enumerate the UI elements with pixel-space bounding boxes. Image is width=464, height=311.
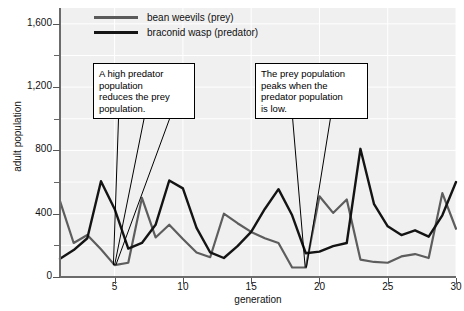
y-tick-mark	[53, 150, 60, 151]
annotation-text-line: is low.	[261, 103, 362, 115]
y-tick-mark-minor	[54, 119, 60, 120]
x-axis-line	[59, 276, 456, 278]
x-tick-label: 30	[441, 281, 464, 292]
y-tick-label: 400	[0, 207, 52, 218]
annotation-text-line: A high predator	[99, 68, 189, 80]
y-axis-title: adult population	[12, 72, 23, 202]
annotation-text-line: population.	[99, 103, 189, 115]
chart-canvas	[0, 0, 464, 311]
y-tick-label: 800	[0, 143, 52, 154]
x-tick-mark	[388, 278, 389, 284]
y-tick-label: 1,600	[0, 17, 52, 28]
series-layer	[60, 149, 456, 268]
x-tick-mark	[115, 278, 116, 284]
legend-label-predator: braconid wasp (predator)	[147, 27, 258, 38]
annotation-text-line: reduces the prey	[99, 91, 189, 103]
legend-item-prey: bean weevils (prey)	[94, 10, 258, 25]
y-tick-mark-minor	[54, 245, 60, 246]
legend-label-prey: bean weevils (prey)	[147, 12, 234, 23]
x-tick-mark	[183, 278, 184, 284]
annotation-text-line: The prey population	[261, 68, 362, 80]
y-tick-mark	[53, 277, 60, 278]
annotation-text-line: peaks when the	[261, 80, 362, 92]
y-tick-mark	[53, 24, 60, 25]
y-tick-label: 1,200	[0, 80, 52, 91]
y-tick-mark-minor	[54, 182, 60, 183]
y-tick-label: 0	[0, 270, 52, 281]
annotation-callout-prey-peak: The prey populationpeaks when thepredato…	[255, 63, 368, 119]
x-tick-mark	[456, 278, 457, 284]
annotation-callout-predator-effect: A high predatorpopulationreduces the pre…	[93, 63, 195, 119]
y-tick-mark	[53, 87, 60, 88]
x-tick-mark	[251, 278, 252, 284]
y-axis-line	[59, 8, 61, 278]
y-tick-mark	[53, 214, 60, 215]
gridlines	[60, 8, 456, 277]
chart-figure: 04008001,2001,600 51015202530 adult popu…	[0, 0, 464, 311]
legend-swatch-prey-icon	[94, 16, 138, 19]
legend-item-predator: braconid wasp (predator)	[94, 25, 258, 40]
x-tick-mark	[319, 278, 320, 284]
annotation-text-line: population	[99, 80, 189, 92]
chart-legend: bean weevils (prey) braconid wasp (preda…	[94, 10, 258, 40]
x-axis-title: generation	[60, 294, 456, 305]
legend-swatch-predator-icon	[94, 31, 138, 34]
y-tick-mark-minor	[54, 55, 60, 56]
annotation-text-line: predator population	[261, 91, 362, 103]
